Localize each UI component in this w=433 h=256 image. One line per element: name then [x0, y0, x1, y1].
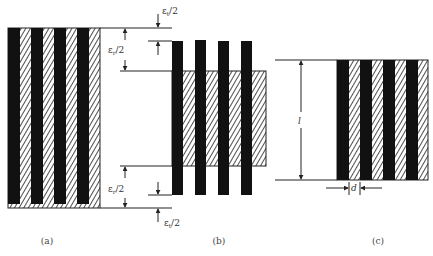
panel-b-solid-bar [195, 40, 206, 195]
panel-b-solid-bar [218, 41, 229, 195]
panel-b-solid-bar [241, 41, 252, 195]
length-label: l [298, 116, 301, 126]
panel-a-caption: (a) [41, 236, 53, 246]
panel-b-solid-bar [172, 41, 183, 195]
dimension-labels: εt/2 εr/2 εr/2 εt/2 [108, 6, 180, 229]
panel-c-solid-stripe [337, 60, 349, 180]
panel-c-caption: (c) [372, 236, 384, 246]
panel-a-solid-stripe [31, 28, 43, 204]
panel-c-solid-stripe [406, 60, 418, 180]
panel-a: (a) [8, 28, 100, 246]
spacing-label: d [351, 183, 357, 193]
panel-b: (b) [172, 40, 266, 246]
diagram-canvas: (a) εt/2 εr/2 εr/2 εt/2 (b) [0, 0, 433, 256]
inner-bottom-label: εr/2 [108, 184, 124, 195]
panel-b-caption: (b) [213, 236, 226, 246]
inner-top-label: εr/2 [108, 45, 124, 56]
panel-a-solid-stripe [8, 28, 20, 204]
panel-a-solid-stripe [54, 28, 66, 204]
panel-c: l d (c) [275, 60, 428, 246]
panel-c-solid-stripe [383, 60, 395, 180]
panel-c-solid-stripe [360, 60, 372, 180]
panel-a-solid-stripe [77, 28, 89, 204]
outer-bottom-label: εt/2 [164, 218, 180, 229]
outer-top-label: εt/2 [162, 6, 178, 17]
